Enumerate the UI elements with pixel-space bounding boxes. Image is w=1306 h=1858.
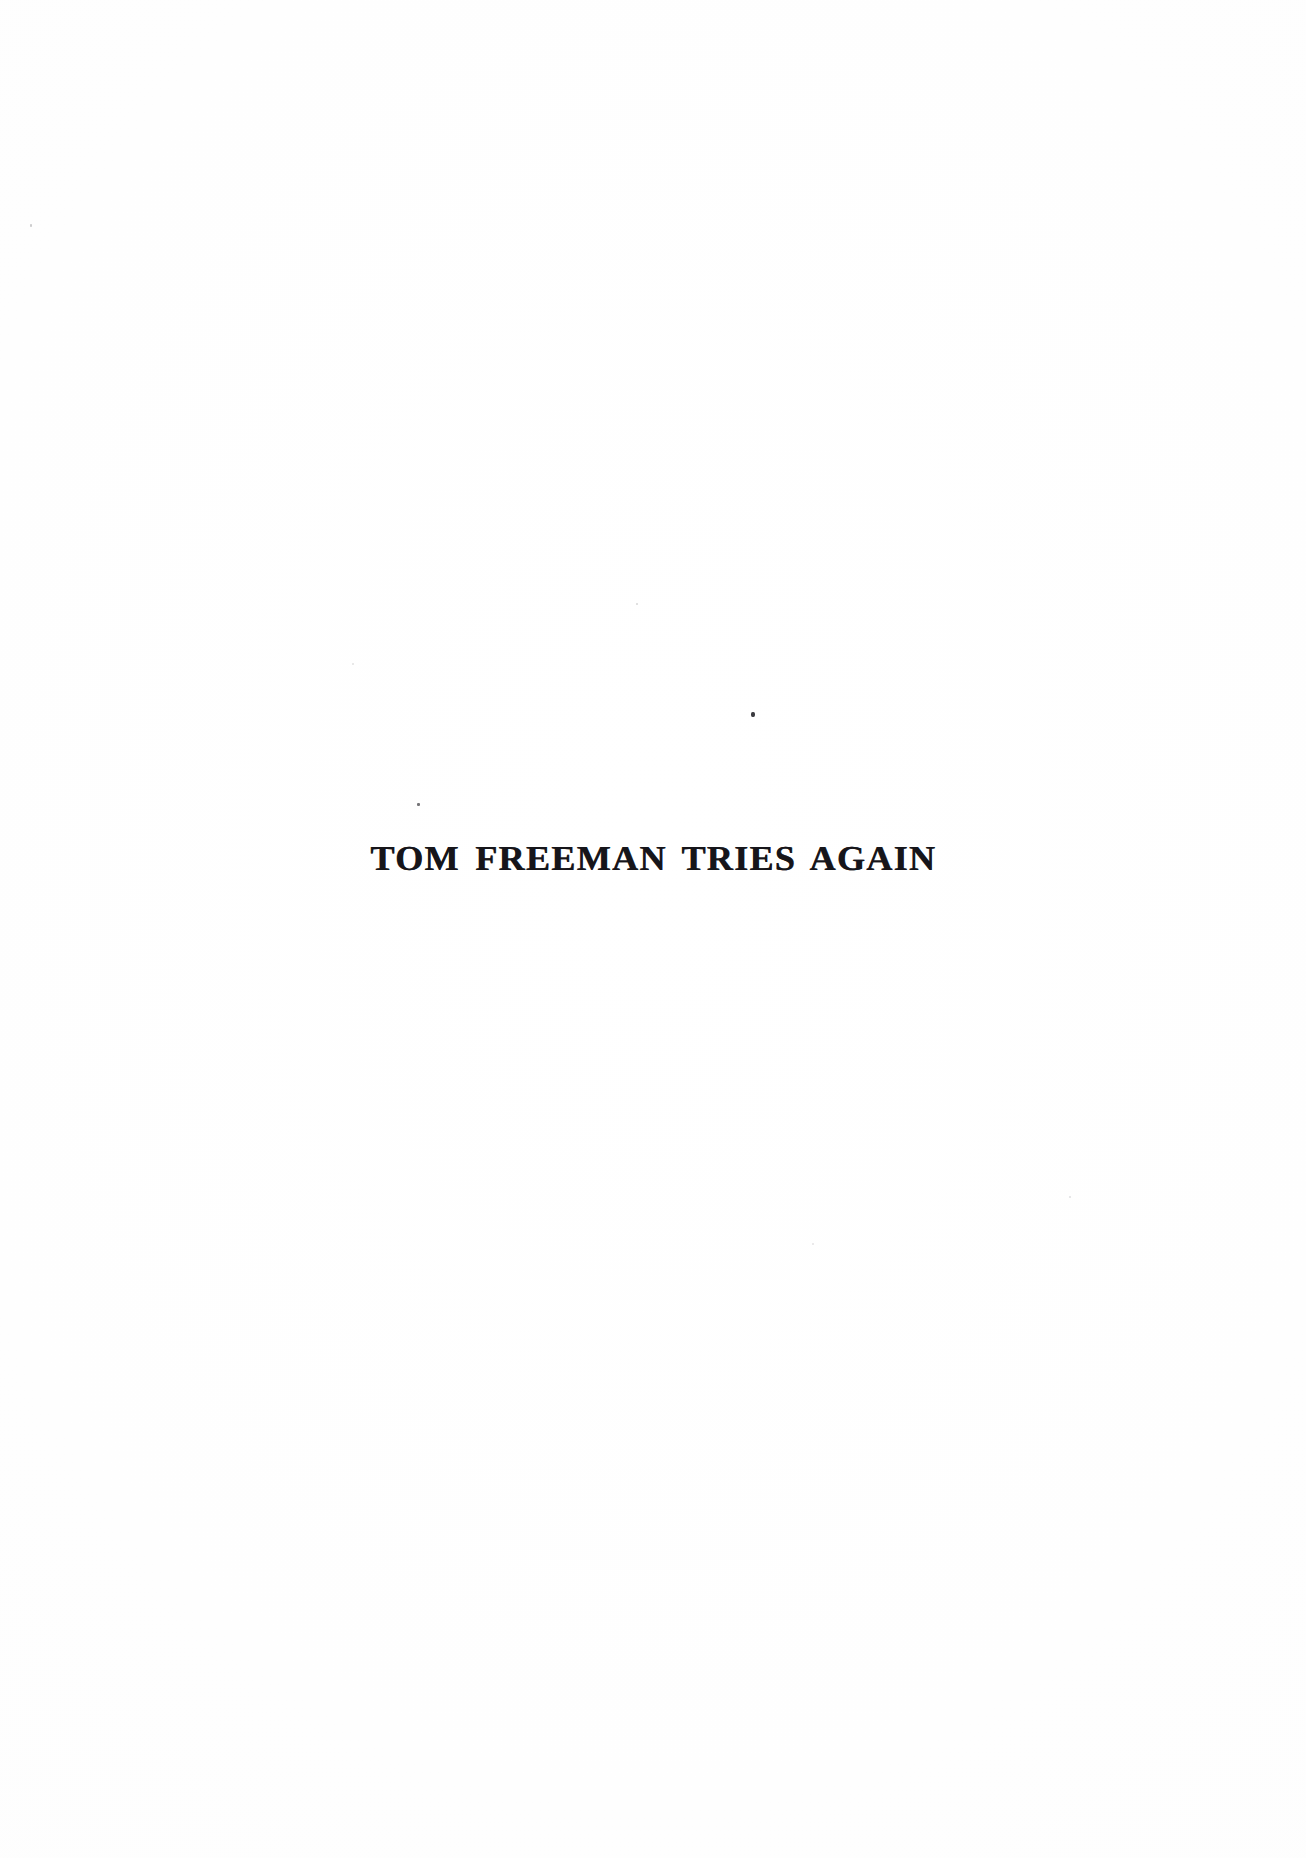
scan-vignette-overlay [0,0,1306,1858]
scan-dust-speck [636,603,638,605]
scan-dust-speck [30,224,32,227]
scan-dust-speck [812,1243,814,1245]
page-title-block: TOM FREEMAN TRIES AGAIN [0,818,1306,900]
scan-dust-speck [352,663,354,665]
scan-dust-speck [1069,1196,1071,1198]
scanned-page: TOM FREEMAN TRIES AGAIN [0,0,1306,1858]
scan-dust-speck [417,803,420,806]
scan-dust-speck [751,712,755,717]
page-title: TOM FREEMAN TRIES AGAIN [370,841,936,876]
